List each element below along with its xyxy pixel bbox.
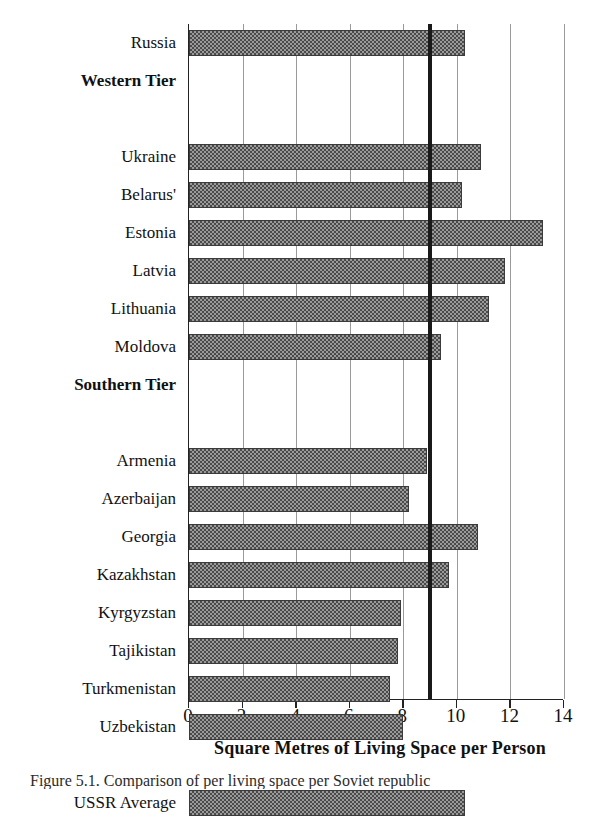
bar-row [189, 252, 563, 290]
bar [189, 676, 390, 702]
category-label: Kazakhstan [0, 556, 182, 594]
bar-row [189, 556, 563, 594]
category-label: Lithuania [0, 290, 182, 328]
bar-row [189, 670, 563, 708]
bar [189, 600, 401, 626]
category-label-empty [0, 404, 182, 442]
spacer-row [189, 366, 563, 404]
bar [189, 30, 465, 56]
bar [189, 220, 543, 246]
bar [189, 334, 441, 360]
category-group-header: Southern Tier [0, 366, 182, 404]
bar [189, 258, 505, 284]
bar [189, 638, 398, 664]
category-axis-labels: RussiaWestern TierUkraineBelarus'Estonia… [0, 24, 182, 820]
bar [189, 182, 462, 208]
bar-row [189, 176, 563, 214]
spacer-row [189, 62, 563, 100]
bar-row [189, 708, 563, 746]
category-label: Ukraine [0, 138, 182, 176]
bar-row [189, 480, 563, 518]
bar [189, 562, 449, 588]
bar [189, 524, 478, 550]
bar-row [189, 594, 563, 632]
category-label: USSR Average [0, 784, 182, 820]
category-label: Kyrgyzstan [0, 594, 182, 632]
bar-row [189, 138, 563, 176]
bar [189, 486, 409, 512]
category-label: Latvia [0, 252, 182, 290]
bar [189, 714, 403, 740]
reference-line [428, 24, 432, 699]
category-label: Tajikistan [0, 632, 182, 670]
bar-row [189, 784, 563, 820]
bar-rows [189, 24, 563, 699]
category-group-header: Western Tier [0, 62, 182, 100]
category-label-empty [0, 100, 182, 138]
category-label: Moldova [0, 328, 182, 366]
category-label: Georgia [0, 518, 182, 556]
category-label: Armenia [0, 442, 182, 480]
bar [189, 296, 489, 322]
bar-row [189, 214, 563, 252]
category-label: Estonia [0, 214, 182, 252]
bar-row [189, 632, 563, 670]
category-label: Azerbaijan [0, 480, 182, 518]
category-label: Turkmenistan [0, 670, 182, 708]
plot-area [188, 24, 563, 700]
chart-area: RussiaWestern TierUkraineBelarus'Estonia… [0, 0, 599, 720]
bar-row [189, 442, 563, 480]
bar-row [189, 290, 563, 328]
bar [189, 144, 481, 170]
category-label: Russia [0, 24, 182, 62]
bar-row [189, 518, 563, 556]
spacer-row [189, 404, 563, 442]
gridline-14 [564, 24, 565, 699]
bar-row [189, 328, 563, 366]
bar [189, 790, 465, 816]
bar-row [189, 24, 563, 62]
bar [189, 448, 427, 474]
spacer-row [189, 746, 563, 784]
category-label: Belarus' [0, 176, 182, 214]
spacer-row [189, 100, 563, 138]
